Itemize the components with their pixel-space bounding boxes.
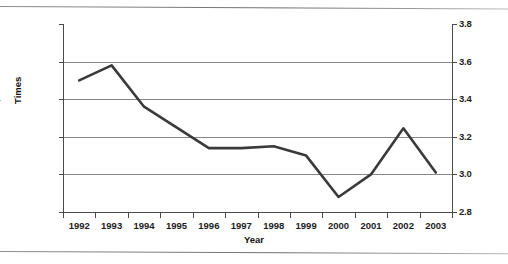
x-axis-title: Year bbox=[0, 234, 508, 245]
series-layer bbox=[0, 0, 508, 264]
data-line-times bbox=[79, 65, 436, 197]
y-axis-title: Times bbox=[12, 77, 23, 104]
scanned-chart-page: 2.82.83.03.03.23.23.43.43.63.63.83.8 199… bbox=[0, 0, 508, 264]
line-chart: 2.82.83.03.03.23.23.43.43.63.63.83.8 199… bbox=[0, 0, 508, 264]
